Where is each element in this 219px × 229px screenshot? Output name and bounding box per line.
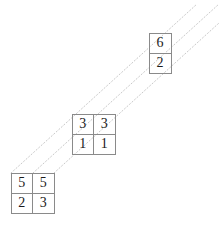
diagonal-guide-middle <box>33 4 219 173</box>
cell: 3 <box>93 114 116 135</box>
cell: 3 <box>32 193 55 214</box>
cell: 5 <box>32 173 55 194</box>
cell: 5 <box>11 173 34 194</box>
cell: 3 <box>72 114 95 135</box>
diagram-canvas: 6 2 3 3 1 1 5 5 2 3 <box>0 0 219 229</box>
middle-block: 3 3 1 1 <box>72 114 115 154</box>
cell: 6 <box>149 33 172 54</box>
top-right-block: 6 2 <box>149 33 171 73</box>
cell: 1 <box>93 134 116 155</box>
cell: 2 <box>11 193 34 214</box>
cell: 2 <box>149 53 172 74</box>
bottom-left-block: 5 5 2 3 <box>11 173 54 213</box>
cell: 1 <box>72 134 95 155</box>
